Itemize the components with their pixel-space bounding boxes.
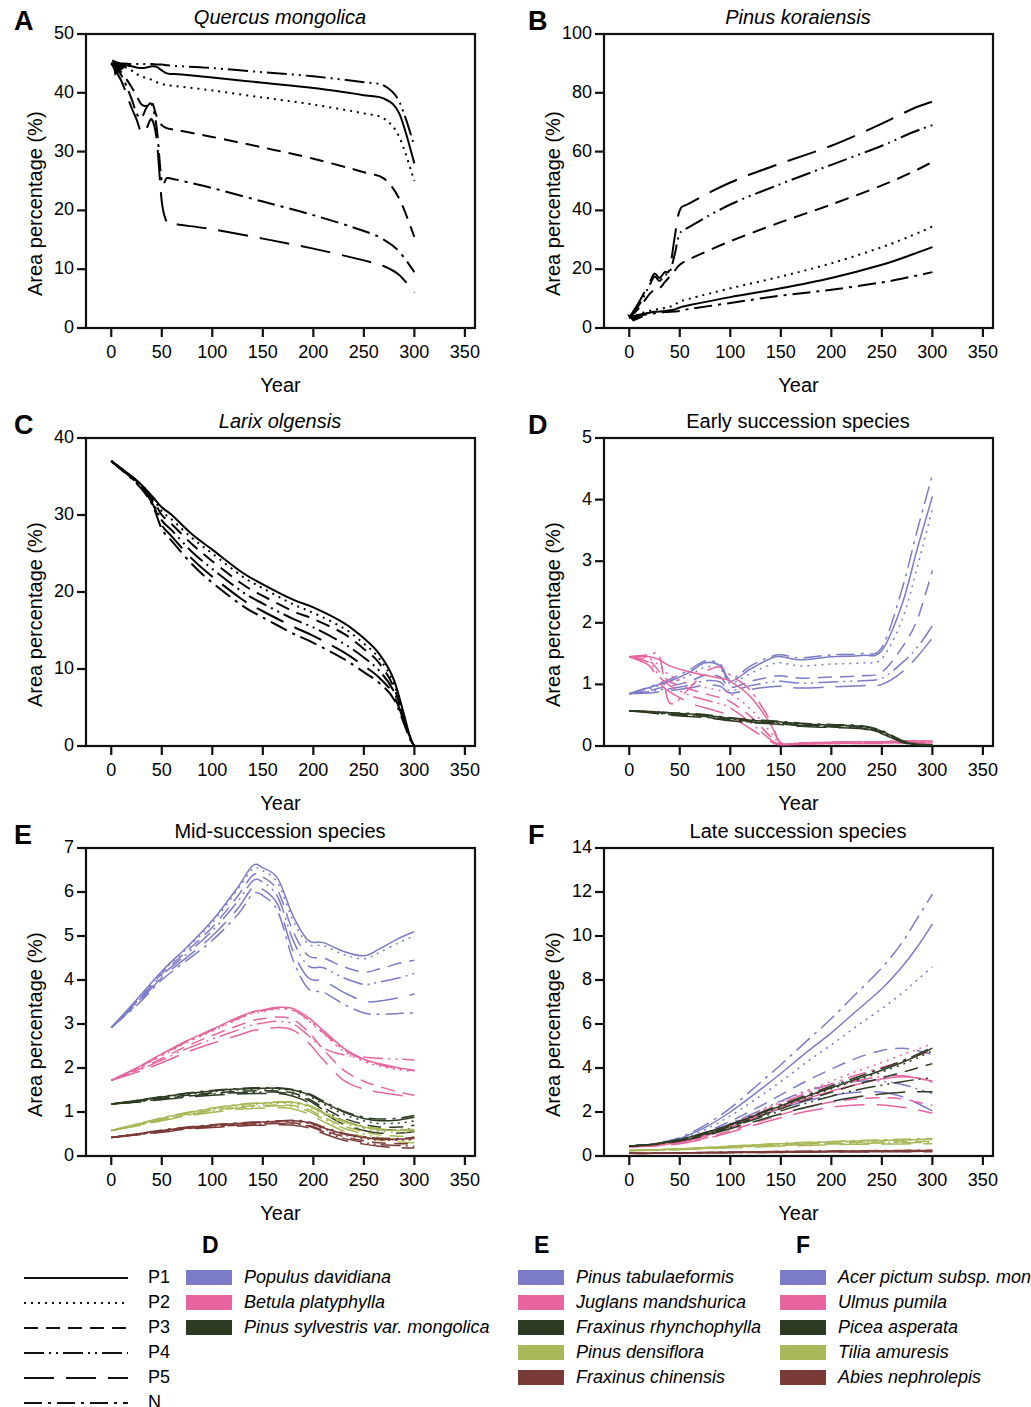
- y-tick-d-0: 0: [532, 735, 592, 756]
- y-tick-e-3: 3: [14, 1013, 74, 1034]
- legend-species-row: Acer pictum subsp. mono: [780, 1265, 1031, 1290]
- x-tick-c-350: 350: [435, 760, 495, 781]
- legend-species-row: Fraxinus rhynchophylla: [518, 1315, 761, 1340]
- legend-linestyle-label: P3: [148, 1317, 170, 1338]
- legend-column-e: EPinus tabulaeformisJuglans mandshuricaF…: [518, 1232, 761, 1390]
- data-line: [629, 967, 932, 1146]
- data-line: [629, 102, 932, 318]
- data-line: [629, 656, 932, 744]
- y-tick-b-80: 80: [532, 82, 592, 103]
- legend-species-row: Abies nephrolepis: [780, 1365, 1031, 1390]
- legend-species-label: Picea asperata: [838, 1317, 958, 1338]
- data-line: [629, 653, 932, 745]
- legend-species-label: Populus davidiana: [244, 1267, 391, 1288]
- legend-species-label: Tilia amuresis: [838, 1342, 949, 1363]
- x-axis-label-a: Year: [181, 374, 381, 397]
- legend-column-d: DPopulus davidianaBetula platyphyllaPinu…: [186, 1232, 489, 1340]
- legend-column-header: E: [534, 1232, 761, 1259]
- color-swatch-icon: [780, 1370, 826, 1385]
- legend-linestyle-row: P5: [22, 1365, 170, 1390]
- y-tick-f-12: 12: [532, 881, 592, 902]
- data-line: [629, 924, 932, 1146]
- legend-species-label: Fraxinus chinensis: [576, 1367, 725, 1388]
- x-tick-a-350: 350: [435, 342, 495, 363]
- data-line: [111, 892, 414, 1027]
- x-tick-f-350: 350: [953, 1170, 1013, 1191]
- data-line: [111, 1009, 414, 1080]
- color-swatch-icon: [518, 1270, 564, 1285]
- legend-species-row: Tilia amuresis: [780, 1340, 1031, 1365]
- x-tick-d-350: 350: [953, 760, 1013, 781]
- legend-species-label: Juglans mandshurica: [576, 1292, 746, 1313]
- color-swatch-icon: [186, 1295, 232, 1310]
- data-line: [629, 475, 932, 694]
- x-axis-label-c: Year: [181, 792, 381, 815]
- data-line: [629, 657, 932, 745]
- x-tick-b-350: 350: [953, 342, 1013, 363]
- figure-legend: P1P2P3P4P5NDPopulus davidianaBetula plat…: [0, 1232, 1031, 1407]
- line-style-swatch-icon: [22, 1396, 130, 1407]
- y-tick-b-40: 40: [532, 199, 592, 220]
- color-swatch-icon: [518, 1295, 564, 1310]
- y-tick-b-100: 100: [532, 23, 592, 44]
- y-tick-f-10: 10: [532, 925, 592, 946]
- color-swatch-icon: [518, 1320, 564, 1335]
- legend-column-header: D: [202, 1232, 489, 1259]
- y-tick-c-10: 10: [14, 658, 74, 679]
- legend-species-label: Abies nephrolepis: [838, 1367, 981, 1388]
- y-tick-e-5: 5: [14, 925, 74, 946]
- legend-linestyle-label: P2: [148, 1292, 170, 1313]
- y-tick-e-4: 4: [14, 969, 74, 990]
- legend-linestyle-row: P3: [22, 1315, 170, 1340]
- data-line: [629, 657, 932, 745]
- y-tick-b-20: 20: [532, 258, 592, 279]
- y-tick-e-7: 7: [14, 837, 74, 858]
- legend-linestyle-label: P5: [148, 1367, 170, 1388]
- line-style-swatch-icon: [22, 1321, 130, 1335]
- y-tick-f-2: 2: [532, 1101, 592, 1122]
- color-swatch-icon: [780, 1320, 826, 1335]
- legend-linestyle-row: P4: [22, 1340, 170, 1365]
- x-tick-e-350: 350: [435, 1170, 495, 1191]
- data-line: [111, 1120, 414, 1138]
- legend-linestyle-column: P1P2P3P4P5N: [22, 1265, 170, 1407]
- data-line: [111, 63, 414, 272]
- y-tick-f-4: 4: [532, 1057, 592, 1078]
- plot-area-a: [74, 22, 487, 340]
- y-tick-f-14: 14: [532, 837, 592, 858]
- data-line: [111, 1021, 414, 1080]
- data-line: [111, 1106, 414, 1140]
- legend-species-label: Ulmus pumila: [838, 1292, 947, 1313]
- legend-linestyle-label: N: [148, 1392, 161, 1407]
- data-line: [629, 657, 932, 745]
- y-tick-b-0: 0: [532, 317, 592, 338]
- legend-column-f: FAcer pictum subsp. monoUlmus pumilaPice…: [780, 1232, 1031, 1390]
- y-tick-e-0: 0: [14, 1145, 74, 1166]
- y-tick-c-30: 30: [14, 504, 74, 525]
- y-tick-c-20: 20: [14, 581, 74, 602]
- legend-species-row: Pinus sylvestris var. mongolica: [186, 1315, 489, 1340]
- data-line: [629, 1092, 932, 1146]
- legend-species-row: Fraxinus chinensis: [518, 1365, 761, 1390]
- legend-species-row: Pinus densiflora: [518, 1340, 761, 1365]
- legend-species-label: Pinus densiflora: [576, 1342, 704, 1363]
- y-tick-a-50: 50: [14, 23, 74, 44]
- legend-species-row: Betula platyphylla: [186, 1290, 489, 1315]
- data-line: [629, 711, 932, 745]
- y-tick-e-1: 1: [14, 1101, 74, 1122]
- data-line: [629, 1047, 932, 1146]
- legend-species-label: Pinus tabulaeformis: [576, 1267, 734, 1288]
- y-tick-e-2: 2: [14, 1057, 74, 1078]
- y-tick-b-60: 60: [532, 141, 592, 162]
- data-line: [629, 570, 932, 693]
- y-tick-d-5: 5: [532, 427, 592, 448]
- plot-area-d: [592, 426, 1005, 758]
- color-swatch-icon: [186, 1270, 232, 1285]
- y-tick-a-20: 20: [14, 199, 74, 220]
- y-tick-c-0: 0: [14, 735, 74, 756]
- line-style-swatch-icon: [22, 1296, 130, 1310]
- y-tick-d-1: 1: [532, 673, 592, 694]
- data-line: [629, 509, 932, 694]
- data-line: [629, 657, 932, 745]
- data-line: [629, 1092, 932, 1146]
